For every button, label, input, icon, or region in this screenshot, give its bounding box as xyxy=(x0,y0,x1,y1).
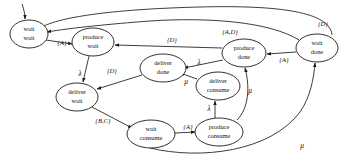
edge-label-mu-produce-consume-to-wait-done: μ xyxy=(300,141,304,150)
node-label-line1: deliver xyxy=(209,77,228,84)
node-label-line2: consume xyxy=(207,86,230,93)
diagram-canvas: wait wait produce wait deliver wait deli… xyxy=(0,0,345,163)
node-wait-done[interactable]: wait done xyxy=(296,34,338,62)
node-wait-wait[interactable]: wait wait xyxy=(10,20,48,48)
edge-label-a-wait-consume-to-produce-consume: {A} xyxy=(183,123,193,131)
node-label-line2: wait xyxy=(87,42,98,49)
edge-label-d-wait-done-to-wait-wait: {D} xyxy=(318,20,328,28)
state-transition-diagram: wait wait produce wait deliver wait deli… xyxy=(0,0,345,163)
edge-label-lambda-produce-wait-to-deliver-wait: λ xyxy=(77,69,82,78)
node-label-line2: wait xyxy=(23,34,34,41)
edge-label-mu-deliver-consume-to-deliver-done: μ xyxy=(184,77,188,86)
node-label-line1: deliver xyxy=(154,59,173,66)
node-label-line1: produce xyxy=(83,33,104,40)
edge-label-a-wait-wait-to-produce-wait: {A} xyxy=(57,39,67,47)
node-deliver-consume[interactable]: deliver consume xyxy=(196,72,240,100)
node-label-line1: wait xyxy=(311,39,322,46)
edge-produce-done-to-deliver-done xyxy=(184,60,223,68)
node-produce-consume[interactable]: produce consume xyxy=(195,118,243,146)
edge-deliver-done-to-deliver-wait xyxy=(97,75,142,89)
edge-wait-consume-to-produce-consume xyxy=(175,132,195,133)
node-label-line2: wait xyxy=(71,97,82,104)
node-wait-consume[interactable]: wait consume xyxy=(127,120,175,148)
node-deliver-done[interactable]: deliver done xyxy=(140,54,186,82)
edge-label-d-deliver-done-to-deliver-wait: {D} xyxy=(107,67,117,75)
edge-produce-wait-to-deliver-wait xyxy=(83,56,89,82)
node-label-line1: wait xyxy=(145,125,156,132)
edge-label-lambda-produce-done-to-deliver-done: λ xyxy=(196,58,201,67)
edge-produce-consume-to-produce-done xyxy=(237,68,248,120)
node-label-line1: produce xyxy=(234,44,255,51)
node-label-line2: done xyxy=(238,53,251,60)
node-label-line2: consume xyxy=(208,132,231,139)
edge-label-ad-produce-done-to-wait-wait: {A,D} xyxy=(222,28,238,36)
edge-label-d-produce-done-to-produce-wait: {D} xyxy=(167,36,177,44)
edge-wait-done-to-produce-done xyxy=(267,52,296,54)
edge-start-to-wait-wait xyxy=(22,4,25,19)
edge-label-mu-produce-consume-to-produce-done: μ xyxy=(248,86,252,95)
node-label-line1: deliver xyxy=(68,88,87,95)
edge-produce-done-to-produce-wait xyxy=(115,45,222,48)
node-produce-done[interactable]: produce done xyxy=(222,39,266,67)
node-label-line1: produce xyxy=(209,123,230,130)
edge-label-lambda-produce-consume-to-deliver-consume: λ xyxy=(206,104,211,113)
node-label-line2: done xyxy=(157,68,170,75)
node-label-line2: done xyxy=(311,48,324,55)
node-label-line1: wait xyxy=(23,25,34,32)
node-deliver-wait[interactable]: deliver wait xyxy=(56,83,98,111)
edge-label-a-wait-done-to-produce-done: {A} xyxy=(279,56,289,64)
edge-label-bc-deliver-wait-to-wait-consume: {B,C} xyxy=(95,117,111,125)
node-produce-wait[interactable]: produce wait xyxy=(72,28,114,56)
node-label-line2: consume xyxy=(140,134,163,141)
